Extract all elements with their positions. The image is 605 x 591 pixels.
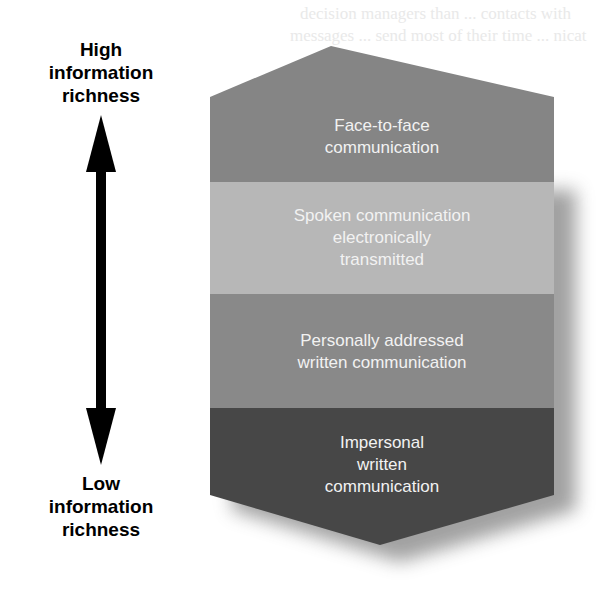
- band-label-spoken-electronic: Spoken communication electronically tran…: [210, 205, 554, 271]
- band-label-impersonal-written: Impersonal written communication: [210, 432, 554, 498]
- high-richness-label: High information richness: [31, 38, 171, 107]
- low-richness-label: Low information richness: [31, 472, 171, 541]
- double-headed-vertical-arrow-icon: [86, 115, 116, 465]
- band-face-to-face: [200, 40, 560, 182]
- band-label-face-to-face: Face-to-face communication: [210, 115, 554, 159]
- band-label-personal-written: Personally addressed written communicati…: [210, 330, 554, 374]
